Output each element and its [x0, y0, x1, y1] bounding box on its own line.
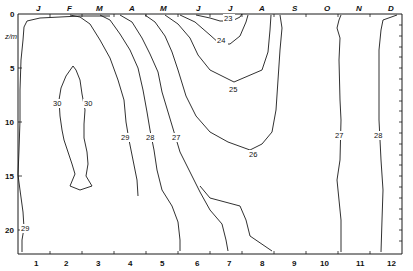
y-tick-label: 0	[10, 10, 15, 19]
contour-label-26: 26	[249, 150, 257, 159]
contour-label-29: 29	[121, 133, 129, 142]
number-labels: 1 2 3 4 5 6 7 8 9 10 11 12	[34, 259, 396, 268]
contour-label-30: 30	[84, 99, 92, 108]
month-label: M	[160, 4, 167, 13]
contour-26-tail	[200, 186, 272, 251]
contour-label-23: 23	[224, 14, 232, 23]
month-label: D	[388, 4, 394, 13]
contour-label-28-right: 28	[374, 131, 382, 140]
contour-29-main	[70, 15, 138, 196]
y-tick-label: 20	[5, 226, 14, 235]
month-labels: J F M A M J J A S O N D	[36, 4, 394, 13]
contour-29-left	[18, 16, 110, 252]
month-label: J	[196, 4, 201, 13]
contour-label-24: 24	[217, 36, 225, 45]
month-number-label: 3	[96, 259, 101, 268]
contour-label-30: 30	[53, 99, 61, 108]
contour-25	[165, 15, 271, 82]
month-number-label: 9	[292, 259, 297, 268]
month-number-label: 11	[356, 259, 365, 268]
contour-30	[59, 66, 92, 190]
y-axis-unit: z/m	[4, 32, 17, 41]
y-tick-label: 5	[10, 64, 15, 73]
contour-plot: J F M A M J J A S O N D 1 2 3 4 5 6 7 8 …	[0, 0, 413, 271]
month-number-label: 8	[260, 259, 265, 268]
contour-label-28: 28	[146, 133, 154, 142]
contour-28-main	[100, 15, 180, 251]
month-number-label: 1	[34, 259, 39, 268]
month-label: A	[128, 4, 135, 13]
month-number-label: 12	[387, 259, 396, 268]
month-number-label: 4	[128, 259, 133, 268]
month-number-label: 7	[227, 259, 232, 268]
contour-label-27-right: 27	[335, 131, 343, 140]
contour-26	[145, 15, 282, 150]
month-label: A	[258, 4, 265, 13]
y-tick-label: 15	[5, 172, 14, 181]
y-tick-labels: 0 z/m 5 10 15 20	[4, 10, 17, 235]
month-label: F	[67, 4, 73, 13]
month-label: M	[96, 4, 103, 13]
contour-label-27: 27	[172, 133, 180, 142]
contour-label-29-left: 29	[21, 224, 29, 233]
contour-label-25: 25	[229, 85, 237, 94]
month-label: N	[356, 4, 362, 13]
month-number-label: 2	[64, 259, 69, 268]
month-number-label: 5	[160, 259, 165, 268]
contour-23	[196, 14, 242, 21]
temperature-depth-contour-chart: J F M A M J J A S O N D 1 2 3 4 5 6 7 8 …	[0, 0, 413, 271]
y-tick-label: 10	[5, 118, 14, 127]
month-number-label: 6	[195, 259, 200, 268]
month-number-label: 10	[320, 259, 329, 268]
month-label: S	[292, 4, 298, 13]
month-label: J	[228, 4, 233, 13]
month-label: O	[324, 4, 331, 13]
month-label: J	[36, 4, 41, 13]
